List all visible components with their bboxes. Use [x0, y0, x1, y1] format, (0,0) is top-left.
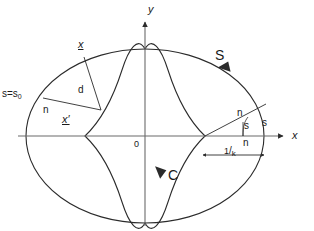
point-x-prime-label: x′	[62, 114, 70, 125]
y-axis-label: y	[148, 4, 154, 15]
figure-container: y x 0 S C s=s0 x x′ d n n n s s 1/k	[0, 0, 314, 231]
arclength-label-outer: s	[262, 118, 267, 128]
arc-start-label-subscript: 0	[18, 93, 22, 100]
radius-denominator: k	[232, 149, 236, 158]
distance-label-d: d	[78, 85, 84, 95]
inner-curve-direction-arrowhead	[152, 166, 167, 180]
arclength-label-inner: s	[244, 121, 249, 131]
origin-label: 0	[134, 140, 139, 149]
radius-of-curvature-label: 1/k	[224, 146, 236, 158]
arc-start-label: s=s0	[2, 89, 22, 100]
arc-start-label-text: s=s	[2, 88, 18, 99]
x-axis-label: x	[292, 130, 298, 141]
geometry-diagram	[0, 0, 314, 231]
point-x-label: x	[78, 39, 84, 50]
inner-curve-label-C: C	[168, 168, 178, 182]
y-axis-label-text: y	[148, 3, 154, 15]
distance-segment-d	[84, 57, 101, 110]
normal-label-right-top: n	[237, 108, 243, 118]
normal-label-right-bottom: n	[243, 138, 249, 148]
normal-label-left: n	[43, 105, 49, 115]
normal-segment-right	[205, 104, 266, 136]
normal-segment-left	[43, 98, 101, 110]
x-axis-label-text: x	[292, 129, 298, 141]
outer-curve-label-S: S	[215, 48, 224, 62]
